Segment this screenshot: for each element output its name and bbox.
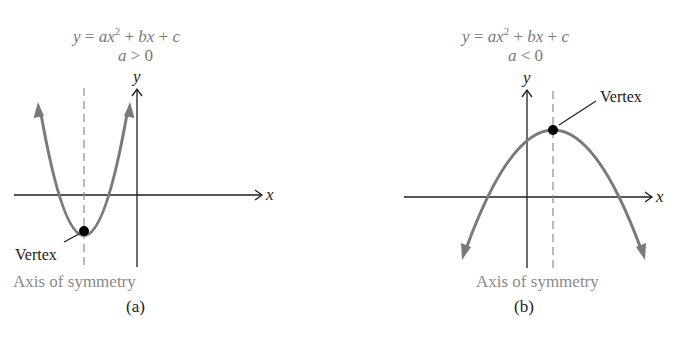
panel-b-label: (b): [514, 298, 534, 315]
panel-a-x-axis-label: x: [266, 186, 274, 203]
eq-a-coef-c: c: [172, 27, 180, 46]
eq-b-coef-b: b: [527, 27, 536, 46]
cond-a-op: >: [131, 46, 141, 65]
eq-b-coef-c: c: [561, 27, 569, 46]
panel-b-vertex-leader: [559, 101, 596, 125]
panel-a-label: (a): [126, 298, 145, 315]
panel-a-graph: [14, 88, 262, 268]
eq-a-exponent: 2: [115, 25, 121, 37]
panel-b-condition: a < 0: [508, 47, 543, 64]
eq-b-lhs: y: [462, 27, 470, 46]
cond-b-val: 0: [535, 46, 544, 65]
eq-a-x: x: [107, 27, 115, 46]
panel-a-axis-of-symmetry-label: Axis of symmetry: [13, 273, 136, 290]
figure-graphics: [0, 0, 684, 346]
eq-b-exponent: 2: [504, 25, 510, 37]
eq-a-coef-a: a: [99, 27, 108, 46]
panel-b-y-axis-label: y: [523, 69, 531, 86]
eq-b-plus1: +: [513, 27, 523, 46]
panel-a-curve-arrow-right-icon: [124, 102, 135, 118]
panel-b-x-axis-label: x: [656, 188, 664, 205]
eq-a-coef-b: b: [138, 27, 147, 46]
panel-a-curve-arrow-left-icon: [34, 102, 45, 118]
panel-b-equation: y = ax2 + bx + c: [462, 26, 569, 45]
panel-b-vertex-dot: [548, 125, 558, 135]
cond-a-var: a: [118, 46, 127, 65]
eq-a-lhs: y: [73, 27, 81, 46]
eq-b-plus2: +: [548, 27, 558, 46]
cond-a-val: 0: [145, 46, 154, 65]
eq-b-equals: =: [474, 27, 484, 46]
eq-a-plus2: +: [159, 27, 169, 46]
eq-b-coef-a: a: [488, 27, 497, 46]
eq-b-x2: x: [536, 27, 544, 46]
panel-a-equation: y = ax2 + bx + c: [73, 26, 180, 45]
panel-a-condition: a > 0: [118, 47, 153, 64]
panel-a-vertex-leader: [64, 234, 79, 242]
panel-b-curve-arrow-right-icon: [636, 243, 646, 260]
eq-b-x: x: [496, 27, 504, 46]
cond-b-var: a: [508, 46, 517, 65]
panel-a-y-axis-label: y: [133, 68, 141, 85]
eq-a-x2: x: [147, 27, 155, 46]
cond-b-op: <: [521, 46, 531, 65]
quadratic-parabolas-figure: y = ax2 + bx + c a > 0 y x Vertex Axis o…: [0, 0, 684, 346]
panel-b-graph: [404, 90, 652, 268]
panel-b-axis-of-symmetry-label: Axis of symmetry: [476, 273, 599, 290]
panel-a-vertex-label: Vertex: [15, 247, 57, 263]
panel-a-vertex-dot: [79, 226, 89, 236]
panel-b-curve-arrow-left-icon: [461, 243, 471, 260]
eq-a-equals: =: [85, 27, 95, 46]
panel-b-vertex-label: Vertex: [600, 89, 642, 105]
eq-a-plus1: +: [124, 27, 134, 46]
